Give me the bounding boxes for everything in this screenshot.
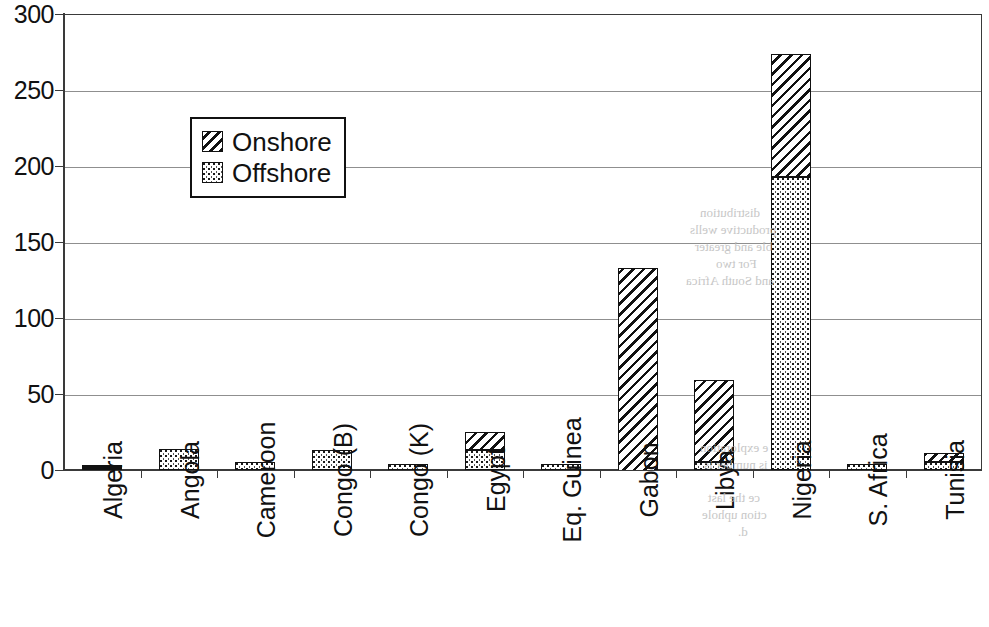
bar-slot <box>64 14 141 470</box>
legend-item-onshore: Onshore <box>202 126 332 157</box>
y-axis-tick-label: 150 <box>6 230 54 255</box>
x-axis-label-slot: Congo (K) <box>370 476 447 627</box>
legend-label-onshore: Onshore <box>232 129 332 155</box>
x-axis-tick-label: Libya <box>713 450 738 510</box>
x-axis-tick-label: Nigeria <box>790 440 815 519</box>
bar-slot <box>906 14 983 470</box>
x-axis-label-slot: Nigeria <box>753 476 830 627</box>
bar-segment-offshore <box>771 177 811 470</box>
x-axis-label-slot: Egypt <box>447 476 524 627</box>
y-axis: 300250200150100500 <box>0 0 54 480</box>
x-axis-tick-label: Congo (K) <box>407 423 432 537</box>
bar-slot <box>447 14 524 470</box>
x-axis-label-slot: Congo (B) <box>294 476 371 627</box>
bar-segment-onshore <box>771 54 811 177</box>
legend: Onshore Offshore <box>190 117 346 198</box>
y-axis-tick-label: 200 <box>6 154 54 179</box>
x-axis-tick-label: Eq. Guinea <box>560 417 585 542</box>
x-axis-tick-label: S. Africa <box>866 433 891 526</box>
bar-gabon <box>618 268 658 470</box>
bar-slot <box>753 14 830 470</box>
bar-slot <box>370 14 447 470</box>
legend-swatch-offshore-icon <box>202 162 223 183</box>
x-axis-tick-label: Egypt <box>484 448 509 512</box>
bar-segment-onshore <box>618 268 658 470</box>
y-axis-tick-label: 250 <box>6 78 54 103</box>
bar-chart: 300250200150100500 AlgeriaAngolaCameroon… <box>0 0 989 627</box>
x-axis-tick-label: Cameroon <box>254 422 279 539</box>
bar-slot <box>523 14 600 470</box>
x-axis-tick-label: Tunisia <box>943 440 968 520</box>
y-axis-tick-label: 300 <box>6 2 54 27</box>
bar-nigeria <box>771 54 811 470</box>
x-axis-label-slot: Gabon <box>600 476 677 627</box>
bar-slot <box>600 14 677 470</box>
x-axis-label-slot: Eq. Guinea <box>523 476 600 627</box>
bar-slot <box>141 14 218 470</box>
y-axis-tick-label: 0 <box>6 458 54 483</box>
x-axis-tick-label: Gabon <box>637 442 662 517</box>
x-axis-label-slot: Angola <box>141 476 218 627</box>
x-axis-label-slot: Libya <box>676 476 753 627</box>
legend-item-offshore: Offshore <box>202 157 332 188</box>
x-axis-tick-label: Angola <box>178 441 203 519</box>
x-axis-label-slot: Cameroon <box>217 476 294 627</box>
bar-slot <box>829 14 906 470</box>
y-axis-tick-label: 100 <box>6 306 54 331</box>
x-axis-label-slot: Algeria <box>64 476 141 627</box>
x-axis-tick-label: Congo (B) <box>331 423 356 537</box>
bar-slot <box>294 14 371 470</box>
bar-slot <box>676 14 753 470</box>
x-axis-labels: AlgeriaAngolaCameroonCongo (B)Congo (K)E… <box>64 476 982 627</box>
x-axis-tick-label: Algeria <box>101 441 126 519</box>
legend-label-offshore: Offshore <box>232 160 331 186</box>
bar-slot <box>217 14 294 470</box>
bar-series-group <box>64 14 982 470</box>
legend-swatch-onshore-icon <box>202 131 223 152</box>
y-axis-tick-label: 50 <box>6 382 54 407</box>
x-axis-label-slot: Tunisia <box>906 476 983 627</box>
x-axis-label-slot: S. Africa <box>829 476 906 627</box>
